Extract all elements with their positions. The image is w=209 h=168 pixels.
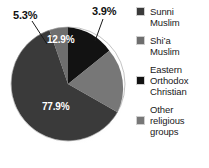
leader-line-other (95, 19, 103, 41)
pie-chart-figure: 12.9% 77.9% 5.3% 3.9% Sunni Muslim Shi’a… (0, 0, 209, 168)
legend-item-other-religious-groups[interactable]: Other religious groups (136, 104, 209, 137)
legend-label-eastern-orthodox-christian: Eastern Orthodox Christian (150, 64, 188, 97)
legend-label-line-3: groups (150, 126, 184, 137)
slice-value-other-religious-groups: 3.9% (92, 5, 116, 17)
legend-label-sunni-muslim: Sunni Muslim (150, 6, 179, 28)
legend-label-other-religious-groups: Other religious groups (150, 104, 184, 137)
slice-value-sunni-muslim: 77.9% (42, 101, 69, 112)
legend-item-shia-muslim[interactable]: Shi’a Muslim (136, 35, 209, 57)
legend-label-line-1: Other (150, 104, 184, 115)
legend-label-shia-muslim: Shi’a Muslim (150, 35, 179, 57)
pie-plot-area: 12.9% 77.9% 5.3% 3.9% (0, 0, 136, 168)
legend-label-line-2: Muslim (150, 17, 179, 28)
legend-item-eastern-orthodox-christian[interactable]: Eastern Orthodox Christian (136, 64, 209, 97)
legend-label-line-2: Orthodox (150, 75, 188, 86)
pie-svg (0, 0, 136, 168)
legend-item-sunni-muslim[interactable]: Sunni Muslim (136, 6, 209, 28)
legend-label-line-3: Christian (150, 86, 188, 97)
legend-label-line-2: religious (150, 115, 184, 126)
legend-swatch-other-religious-groups-icon (136, 116, 145, 125)
legend-label-line-1: Sunni (150, 6, 179, 17)
legend-label-line-1: Shi’a (150, 35, 179, 46)
slice-value-eastern-orthodox-christian: 12.9% (47, 34, 74, 45)
legend-label-line-1: Eastern (150, 64, 188, 75)
legend-swatch-shia-muslim-icon (136, 36, 145, 45)
legend-swatch-eastern-orthodox-christian-icon (136, 76, 145, 85)
legend-swatch-sunni-muslim-icon (136, 7, 145, 16)
chart-legend: Sunni Muslim Shi’a Muslim Eastern Orthod… (136, 0, 209, 168)
slice-value-shia-muslim: 5.3% (13, 9, 37, 21)
legend-label-line-2: Muslim (150, 46, 179, 57)
